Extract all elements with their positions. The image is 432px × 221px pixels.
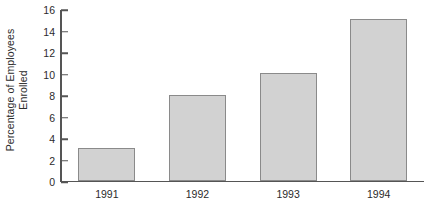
y-axis-title: Percentage of Employees Enrolled	[0, 0, 34, 180]
x-axis-tick-label: 1991	[95, 188, 118, 200]
y-axis-title-line-1: Percentage of Employees	[4, 29, 17, 152]
bar	[169, 95, 226, 181]
y-axis-tick-label: 6	[49, 112, 55, 123]
plot-area	[60, 10, 424, 182]
y-axis-tick-label: 8	[49, 91, 55, 102]
x-axis-tick-label: 1993	[276, 188, 299, 200]
y-axis-tick-label: 12	[43, 48, 55, 59]
y-axis-tick-mark	[61, 181, 68, 183]
bar	[78, 148, 135, 180]
y-axis-tick-label: 10	[43, 69, 55, 80]
y-axis-tick-labels: 0246810121416	[34, 10, 58, 182]
bar	[260, 73, 317, 181]
bar	[350, 19, 407, 180]
x-axis-line	[60, 181, 424, 183]
bars-layer	[60, 10, 424, 181]
bar-chart: Percentage of Employees Enrolled 0246810…	[0, 0, 432, 221]
y-axis-tick-label: 14	[43, 26, 55, 37]
x-axis-tick-labels: 1991199219931994	[60, 188, 424, 210]
y-axis-tick-label: 0	[49, 177, 55, 188]
y-axis-tick-label: 4	[49, 134, 55, 145]
x-axis-tick-label: 1992	[186, 188, 209, 200]
y-axis-tick-label: 2	[49, 155, 55, 166]
y-axis-tick-label: 16	[43, 5, 55, 16]
y-axis-title-line-2: Enrolled	[17, 29, 30, 152]
x-axis-tick-label: 1994	[367, 188, 390, 200]
